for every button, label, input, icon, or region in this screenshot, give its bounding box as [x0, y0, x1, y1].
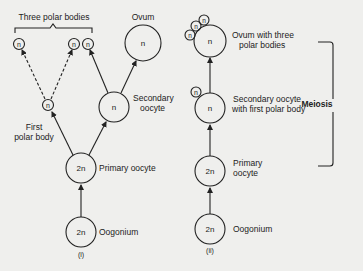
ii-oogonium-ploidy: 2n	[206, 225, 215, 234]
ii-primary-oocyte-label-2: oocyte	[233, 168, 258, 178]
arrow-first-polar-to-pb1	[22, 50, 45, 99]
oogonium-label: Oogonium	[99, 227, 138, 237]
ii-first-polar-body-ploidy: n	[194, 89, 198, 96]
ii-secondary-oocyte-label-2: with first polar body	[231, 104, 306, 114]
first-polar-body-label-2: polar body	[14, 132, 54, 142]
first-polar-body-ploidy: n	[46, 102, 50, 109]
first-polar-body-label-1: First	[26, 122, 43, 132]
arrow-first-polar-to-pb2	[51, 50, 72, 99]
secondary-oocyte-ploidy: n	[112, 103, 116, 112]
ii-ovum-label-2: polar bodies	[239, 40, 285, 50]
polar-bodies-title: Three polar bodies	[19, 12, 90, 22]
primary-oocyte-label: Primary oocyte	[99, 163, 156, 173]
primary-oocyte-ploidy: 2n	[77, 164, 86, 173]
meiosis-label: Meiosis	[301, 99, 332, 109]
caption-i: (i)	[78, 251, 84, 259]
ii-ovum-polar-body-2-ploidy: n	[194, 23, 198, 30]
diagram-i-text: Three polar bodies 2n Oogonium (i) 2n Pr…	[14, 12, 174, 259]
ii-primary-oocyte-ploidy: 2n	[206, 167, 215, 176]
arrow-primary-to-secondary	[89, 122, 106, 155]
oogenesis-diagram: Three polar bodies 2n Oogonium (i) 2n Pr…	[0, 0, 363, 271]
secondary-oocyte-label-1: Secondary	[133, 93, 174, 103]
ii-ovum-polar-body-1-ploidy: n	[188, 32, 192, 39]
ii-oogonium-label: Oogonium	[233, 224, 272, 234]
polar-body-1-ploidy: n	[17, 41, 21, 48]
arrow-secondary-to-ovum	[121, 61, 136, 93]
polar-body-2-ploidy: n	[72, 41, 76, 48]
polar-body-3-ploidy: n	[86, 41, 90, 48]
ii-secondary-oocyte-ploidy: n	[208, 104, 212, 113]
ii-ovum-polar-body-3-ploidy: n	[202, 17, 206, 24]
ii-secondary-oocyte-label-1: Secondary oocyte	[233, 94, 301, 104]
ii-primary-oocyte-label-1: Primary	[233, 158, 263, 168]
ovum-label: Ovum	[132, 12, 155, 22]
polar-bodies-brace	[15, 24, 92, 33]
ovum-ploidy: n	[141, 39, 145, 48]
ii-ovum-ploidy: n	[208, 37, 212, 46]
oogonium-ploidy: 2n	[77, 228, 86, 237]
arrow-secondary-to-pb3	[90, 50, 108, 93]
secondary-oocyte-label-2: oocyte	[140, 103, 165, 113]
caption-ii: (ii)	[206, 247, 214, 255]
arrow-primary-to-first-polar	[52, 112, 73, 155]
ii-ovum-label-1: Ovum with three	[232, 30, 294, 40]
